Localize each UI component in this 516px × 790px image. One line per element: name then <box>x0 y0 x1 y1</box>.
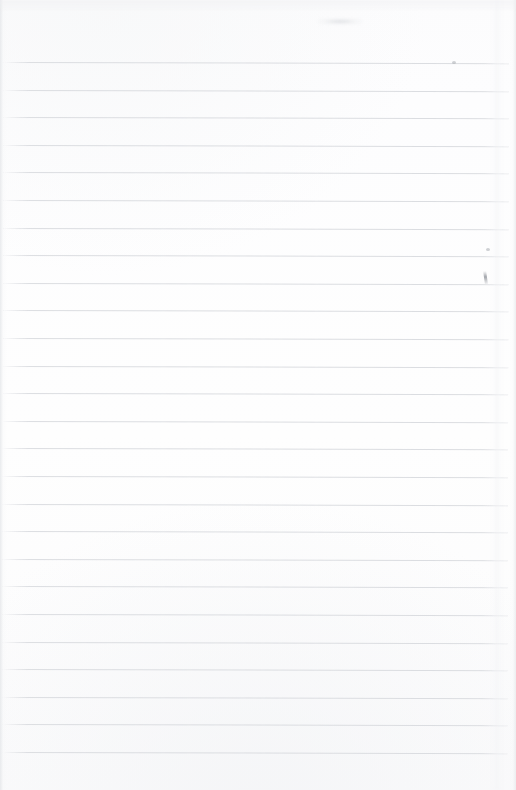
ruled-line <box>3 338 508 340</box>
ruled-line <box>4 117 509 119</box>
bottom-margin-area <box>0 752 516 790</box>
ruled-line <box>3 559 508 561</box>
top-margin-area <box>0 0 516 62</box>
ruled-line <box>3 614 508 616</box>
ruled-line <box>4 172 509 174</box>
paper-texture <box>0 0 516 790</box>
ruled-line <box>4 90 509 92</box>
ruled-line <box>3 393 508 395</box>
ruled-line <box>3 642 508 644</box>
ruled-line <box>3 255 508 257</box>
ruled-line <box>4 145 509 147</box>
top-smudge-artifact <box>318 18 362 25</box>
fold-hint-right-artifact <box>492 0 502 790</box>
ruled-line <box>3 448 508 450</box>
ruled-line <box>4 62 509 64</box>
ruled-line <box>3 310 508 312</box>
ruled-line <box>3 283 508 285</box>
ruled-line <box>3 228 508 230</box>
ruled-lines-layer <box>0 0 516 790</box>
pen-tick-right-artifact <box>483 271 488 284</box>
ruled-line <box>3 504 508 506</box>
page-edge-right <box>509 0 516 790</box>
ruled-line <box>3 366 508 368</box>
top-ghost-band-artifact <box>0 0 516 12</box>
ruled-line <box>3 421 508 423</box>
ruled-line <box>2 752 507 754</box>
page-edge-left <box>0 0 7 790</box>
ruled-line <box>3 531 508 533</box>
ruled-line <box>2 724 507 726</box>
scanned-page <box>0 0 516 790</box>
ruled-line <box>3 586 508 588</box>
dot-right-upper-artifact <box>486 248 490 251</box>
ruled-line <box>4 200 509 202</box>
ruled-line <box>2 697 507 699</box>
dot-top-right-artifact <box>452 61 456 64</box>
ruled-line <box>2 669 507 671</box>
ruled-line <box>3 476 508 478</box>
